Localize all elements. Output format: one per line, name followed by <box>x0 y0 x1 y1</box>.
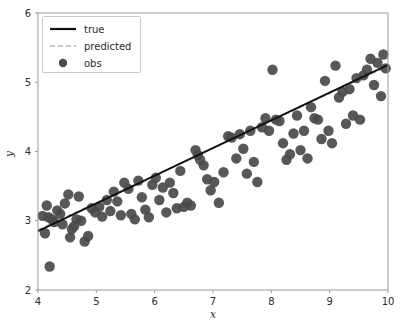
scatter-point <box>161 207 171 217</box>
chart-legend[interactable]: truepredictedobs <box>43 17 141 73</box>
scatter-point <box>292 110 302 120</box>
y-axis-title: y <box>3 150 15 158</box>
chart-figure: 4567891023456 x y truepredictedobs <box>0 0 405 332</box>
scatter-point <box>242 168 252 178</box>
scatter-point <box>369 80 379 90</box>
legend-label-predicted: predicted <box>84 41 131 52</box>
y-tick-label: 3 <box>25 215 31 226</box>
y-tick-label: 4 <box>25 146 31 157</box>
scatter-point <box>137 192 147 202</box>
legend-label-obs: obs <box>84 58 102 69</box>
scatter-point <box>299 126 309 136</box>
scatter-point <box>327 138 337 148</box>
scatter-point <box>60 198 70 208</box>
scatter-point <box>198 160 208 170</box>
scatter-point <box>74 191 84 201</box>
legend-label-true: true <box>84 24 105 35</box>
x-tick-label: 8 <box>268 296 274 307</box>
scatter-point <box>218 167 228 177</box>
scatter-point <box>313 114 323 124</box>
scatter-point <box>55 209 65 219</box>
scatter-point <box>330 60 340 70</box>
x-tick-label: 7 <box>210 296 216 307</box>
scatter-point <box>341 119 351 129</box>
x-tick-label: 9 <box>326 296 332 307</box>
y-tick-label: 6 <box>25 8 31 19</box>
scatter-point <box>316 134 326 144</box>
scatter-point <box>355 114 365 124</box>
scatter-point <box>231 153 241 163</box>
scatter-point <box>42 200 52 210</box>
scatter-point <box>116 210 126 220</box>
x-tick-label: 4 <box>35 296 41 307</box>
scatter-point <box>214 198 224 208</box>
scatter-point <box>209 177 219 187</box>
scatter-point <box>267 65 277 75</box>
scatter-point <box>323 126 333 136</box>
scatter-point <box>76 216 86 226</box>
scatter-plot: 4567891023456 x y truepredictedobs <box>0 0 405 332</box>
scatter-point <box>154 195 164 205</box>
scatter-point <box>320 76 330 86</box>
legend-swatch-obs <box>59 59 67 67</box>
scatter-point <box>285 149 295 159</box>
scatter-point <box>63 189 73 199</box>
x-axis-title: x <box>210 308 216 320</box>
scatter-point <box>278 138 288 148</box>
scatter-point <box>302 153 312 163</box>
scatter-point <box>186 200 196 210</box>
scatter-point <box>83 231 93 241</box>
scatter-point <box>288 128 298 138</box>
scatter-point <box>295 145 305 155</box>
scatter-point <box>378 49 388 59</box>
scatter-point <box>238 144 248 154</box>
x-tick-label: 5 <box>93 296 99 307</box>
scatter-point <box>130 214 140 224</box>
scatter-point <box>252 177 262 187</box>
scatter-point <box>144 212 154 222</box>
x-tick-label: 10 <box>382 296 395 307</box>
scatter-point <box>44 261 54 271</box>
scatter-point <box>112 196 122 206</box>
scatter-point <box>175 166 185 176</box>
scatter-point <box>168 188 178 198</box>
scatter-point <box>264 126 274 136</box>
scatter-point <box>249 157 259 167</box>
scatter-point <box>376 91 386 101</box>
y-tick-label: 5 <box>25 77 31 88</box>
x-tick-label: 6 <box>151 296 157 307</box>
y-tick-label: 2 <box>25 285 31 296</box>
scatter-point <box>165 177 175 187</box>
scatter-point <box>105 206 115 216</box>
